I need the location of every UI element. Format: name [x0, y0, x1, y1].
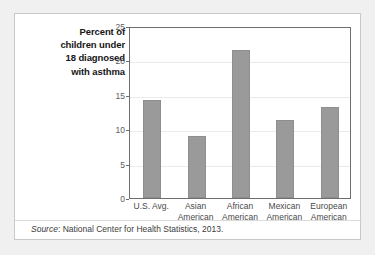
chart-title-line-0: Percent of	[21, 25, 125, 38]
source-citation: National Center for Health Statistics, 2…	[63, 224, 224, 234]
y-tick-label: 25	[116, 22, 125, 32]
y-tick-label: 10	[116, 125, 125, 135]
chart-title-line-1: children under	[21, 38, 125, 51]
source-label: Source	[31, 224, 58, 234]
y-tick-mark	[126, 165, 129, 166]
y-tick-mark	[126, 27, 129, 28]
chart-title-line-2: 18 diagnosed	[21, 51, 125, 64]
y-tick-mark	[126, 130, 129, 131]
chart-region: Percent ofchildren under18 diagnosedwith…	[15, 14, 362, 210]
y-axis: 0510152025	[129, 27, 351, 199]
chart-title: Percent ofchildren under18 diagnosedwith…	[21, 25, 125, 78]
y-tick-label: 0	[120, 194, 125, 204]
figure-card: Percent ofchildren under18 diagnosedwith…	[14, 13, 361, 240]
y-tick-mark	[126, 96, 129, 97]
source-separator: :	[58, 224, 60, 234]
y-tick-mark	[126, 61, 129, 62]
x-tick-label: U.S. Avg.	[129, 201, 173, 212]
y-tick-label: 20	[116, 56, 125, 66]
y-tick-mark	[126, 199, 129, 200]
y-tick-label: 15	[116, 91, 125, 101]
source-note: Source: National Center for Health Stati…	[31, 224, 223, 234]
y-tick-label: 5	[120, 160, 125, 170]
chart-title-line-3: with asthma	[21, 65, 125, 78]
source-divider	[15, 220, 362, 221]
